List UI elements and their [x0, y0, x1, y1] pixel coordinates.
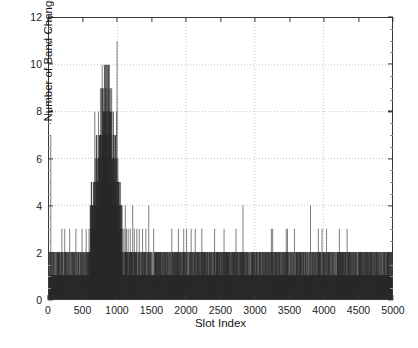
x-tick-mark — [151, 295, 152, 300]
y-minor-tick — [48, 229, 51, 230]
x-tick-mark-top — [185, 17, 186, 22]
y-minor-tick — [48, 265, 51, 266]
y-tick-label: 10 — [30, 59, 42, 70]
y-minor-tick — [48, 241, 51, 242]
y-minor-tick — [48, 217, 51, 218]
y-minor-tick — [48, 182, 51, 183]
x-tick-mark-top — [254, 17, 255, 22]
y-tick-label: 12 — [30, 12, 42, 23]
y-minor-tick — [390, 276, 393, 277]
y-minor-tick — [390, 217, 393, 218]
x-tick-label: 3500 — [278, 305, 301, 316]
x-tick-label: 2500 — [209, 305, 232, 316]
y-minor-tick — [390, 229, 393, 230]
y-tick-label: 0 — [36, 295, 42, 306]
x-tick-label: 0 — [45, 305, 51, 316]
y-tick-mark — [388, 64, 393, 65]
y-axis-label: Number of Band Changes — [42, 0, 54, 165]
x-tick-mark — [47, 295, 48, 300]
x-tick-mark — [185, 295, 186, 300]
y-tick-mark — [388, 111, 393, 112]
y-minor-tick — [48, 288, 51, 289]
y-minor-tick — [48, 194, 51, 195]
y-minor-tick — [390, 135, 393, 136]
y-tick-mark — [388, 205, 393, 206]
y-minor-tick — [390, 29, 393, 30]
y-tick-mark — [388, 252, 393, 253]
y-minor-tick — [390, 88, 393, 89]
x-tick-mark-top — [220, 17, 221, 22]
x-tick-label: 3000 — [243, 305, 266, 316]
x-tick-label: 4500 — [347, 305, 370, 316]
x-tick-mark — [358, 295, 359, 300]
x-tick-mark-top — [392, 17, 393, 22]
x-tick-mark — [254, 295, 255, 300]
x-tick-label: 4000 — [312, 305, 335, 316]
plot-area — [48, 17, 393, 300]
y-minor-tick — [390, 182, 393, 183]
x-tick-mark — [289, 295, 290, 300]
y-minor-tick — [390, 170, 393, 171]
y-tick-mark — [48, 205, 53, 206]
y-minor-tick — [390, 194, 393, 195]
x-tick-label: 1000 — [105, 305, 128, 316]
y-tick-label: 4 — [36, 200, 42, 211]
x-tick-mark — [116, 295, 117, 300]
y-minor-tick — [390, 52, 393, 53]
y-minor-tick — [390, 123, 393, 124]
y-minor-tick — [390, 241, 393, 242]
x-tick-mark-top — [289, 17, 290, 22]
y-minor-tick — [390, 288, 393, 289]
y-minor-tick — [390, 147, 393, 148]
impulse-series — [49, 18, 392, 299]
x-tick-mark-top — [116, 17, 117, 22]
x-tick-label: 5000 — [381, 305, 404, 316]
x-axis-label: Slot Index — [48, 317, 393, 329]
y-tick-mark — [48, 299, 53, 300]
x-tick-mark-top — [358, 17, 359, 22]
x-tick-mark-top — [151, 17, 152, 22]
y-tick-mark — [48, 252, 53, 253]
y-tick-mark — [388, 158, 393, 159]
y-minor-tick — [390, 76, 393, 77]
x-tick-label: 2000 — [174, 305, 197, 316]
x-tick-mark — [220, 295, 221, 300]
x-tick-mark — [82, 295, 83, 300]
x-tick-mark-top — [82, 17, 83, 22]
y-minor-tick — [390, 41, 393, 42]
y-minor-tick — [390, 100, 393, 101]
y-minor-tick — [48, 276, 51, 277]
x-tick-label: 1500 — [140, 305, 163, 316]
y-tick-label: 2 — [36, 248, 42, 259]
x-tick-mark-top — [323, 17, 324, 22]
chart-figure: 024681012 050010001500200025003000350040… — [0, 0, 418, 348]
y-minor-tick — [48, 170, 51, 171]
x-tick-mark — [323, 295, 324, 300]
x-tick-mark — [392, 295, 393, 300]
y-minor-tick — [390, 265, 393, 266]
x-tick-label: 500 — [74, 305, 92, 316]
